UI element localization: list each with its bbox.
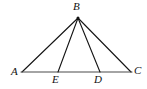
label-point-A: A [11,66,18,77]
segment-cevian-BE [58,18,78,72]
label-point-B: B [73,1,80,12]
vertex-point-B [77,17,80,20]
triangle-diagram [0,0,147,89]
segment-side-AB [22,18,78,72]
geometry-figure: A B C E D [0,0,147,89]
label-point-D: D [94,74,102,85]
segment-cevian-BD [78,18,100,72]
segment-side-BC [78,18,131,72]
label-point-C: C [134,65,141,76]
label-point-E: E [52,74,59,85]
